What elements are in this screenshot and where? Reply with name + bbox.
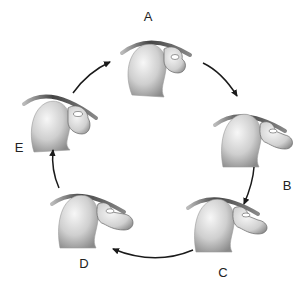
stage-label-b: B xyxy=(283,178,292,193)
stage-label-d: D xyxy=(79,256,88,271)
stage-e xyxy=(24,97,96,152)
stage-label-c: C xyxy=(218,265,227,280)
stage-c xyxy=(188,199,267,252)
arrow-a-to-b xyxy=(203,63,237,96)
arrow-d-to-e xyxy=(53,150,59,188)
stage-a xyxy=(122,42,190,97)
arrow-b-to-c xyxy=(244,167,254,204)
arrow-c-to-d xyxy=(113,249,193,258)
stage-d xyxy=(52,195,133,248)
stage-label-a: A xyxy=(144,9,153,24)
stage-label-e: E xyxy=(15,140,24,155)
arrow-e-to-a xyxy=(73,62,110,93)
cycle-diagram: A B C D E xyxy=(0,0,301,285)
stage-b xyxy=(215,114,293,167)
